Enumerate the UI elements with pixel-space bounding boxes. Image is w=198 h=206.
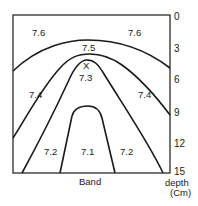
depth-tick-6: 6 <box>174 74 180 85</box>
y-axis-label-unit: (Cm) <box>170 187 191 198</box>
label-7.6-right: 7.6 <box>128 27 141 38</box>
label-7.6-left: 7.6 <box>32 27 45 38</box>
depth-tick-0: 0 <box>174 11 180 22</box>
depth-tick-12: 12 <box>174 138 186 149</box>
x-axis-label: Band <box>79 176 101 187</box>
contour-diagram: 7.6 7.6 7.5 X 7.3 7.4 7.4 7.2 7.1 7.2 0 … <box>0 0 198 206</box>
label-7.4-right: 7.4 <box>138 89 151 100</box>
label-7.2-left: 7.2 <box>44 146 57 157</box>
contour-line-7.1 <box>60 106 115 173</box>
label-7.2-right: 7.2 <box>120 146 133 157</box>
depth-tick-9: 9 <box>174 107 180 118</box>
marker-x: X <box>83 60 90 71</box>
depth-tick-15: 15 <box>174 166 186 177</box>
label-7.3: 7.3 <box>79 72 92 83</box>
label-7.5: 7.5 <box>82 42 95 53</box>
label-7.1: 7.1 <box>81 146 94 157</box>
label-7.4-left: 7.4 <box>29 89 42 100</box>
depth-tick-3: 3 <box>174 43 180 54</box>
